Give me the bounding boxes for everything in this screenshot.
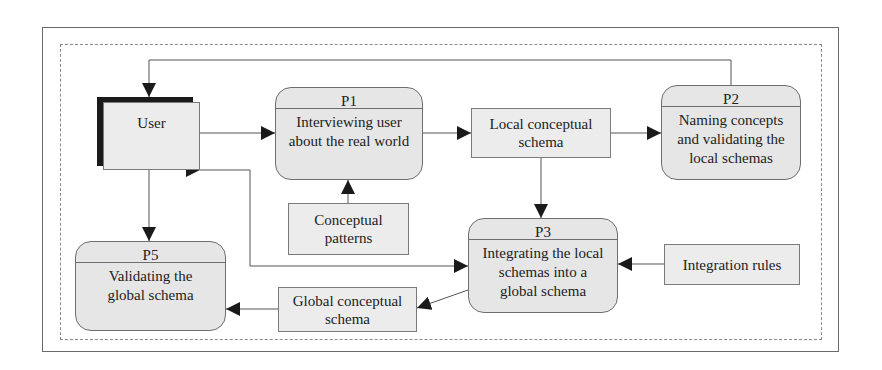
process-p2-text: Naming concepts and validating the local… bbox=[662, 107, 800, 168]
process-p1-id: P1 bbox=[276, 88, 422, 109]
process-p1-text: Interviewing user about the real world bbox=[276, 109, 422, 151]
process-p5-text: Validating the global schema bbox=[76, 263, 225, 305]
process-p3-id: P3 bbox=[469, 219, 617, 240]
store-local-conceptual-schema[interactable]: Local conceptual schema bbox=[471, 108, 611, 158]
process-p3[interactable]: P3 Integrating the local schemas into a … bbox=[468, 218, 618, 313]
user-entity[interactable]: User bbox=[103, 102, 200, 170]
process-p5[interactable]: P5 Validating the global schema bbox=[75, 241, 226, 331]
store-global-text: Global conceptual schema bbox=[283, 292, 412, 328]
flow-p2-to-user bbox=[149, 60, 731, 97]
flow-p3-global bbox=[417, 290, 468, 308]
process-p5-id: P5 bbox=[76, 242, 225, 263]
process-p2[interactable]: P2 Naming concepts and validating the lo… bbox=[661, 85, 801, 180]
process-p1[interactable]: P1 Interviewing user about the real worl… bbox=[275, 87, 423, 180]
process-p2-id: P2 bbox=[662, 86, 800, 107]
store-local-text: Local conceptual schema bbox=[476, 115, 606, 151]
store-patterns-text: Conceptual patterns bbox=[293, 211, 404, 247]
user-entity-label: User bbox=[137, 115, 165, 131]
store-conceptual-patterns[interactable]: Conceptual patterns bbox=[288, 203, 409, 255]
store-global-conceptual-schema[interactable]: Global conceptual schema bbox=[278, 287, 417, 332]
process-p3-text: Integrating the local schemas into a glo… bbox=[469, 240, 617, 301]
store-rules-text: Integration rules bbox=[683, 256, 782, 274]
store-integration-rules[interactable]: Integration rules bbox=[664, 244, 800, 285]
